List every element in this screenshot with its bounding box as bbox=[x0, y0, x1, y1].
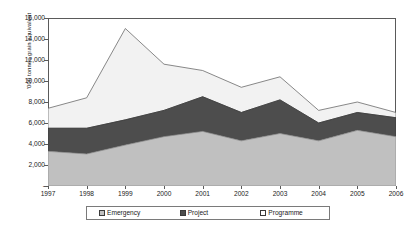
legend-swatch-icon bbox=[180, 210, 186, 216]
y-tick-label: 12,000 bbox=[1, 57, 45, 64]
y-tick-label: 10,000 bbox=[1, 78, 45, 85]
x-axis: 1997199819992000200120022003200420052006 bbox=[48, 190, 396, 204]
y-tick-label: 14,000 bbox=[1, 36, 45, 43]
legend-item-programme[interactable]: Programme bbox=[248, 210, 329, 217]
legend-swatch-icon bbox=[260, 210, 266, 216]
legend-label: Programme bbox=[268, 210, 302, 217]
y-tick-label: 16,000 bbox=[1, 15, 45, 22]
y-tick-label: 2,000 bbox=[1, 162, 45, 169]
x-tick-label: 2005 bbox=[337, 190, 377, 197]
legend-label: Project bbox=[188, 210, 209, 217]
x-tick-mark bbox=[280, 186, 281, 189]
x-tick-mark bbox=[87, 186, 88, 189]
chart-legend: EmergencyProjectProgramme bbox=[86, 206, 330, 220]
x-tick-mark bbox=[48, 186, 49, 189]
legend-label: Emergency bbox=[107, 210, 140, 217]
x-tick-mark bbox=[164, 186, 165, 189]
legend-item-project[interactable]: Project bbox=[168, 210, 249, 217]
y-tick-label: 6,000 bbox=[1, 120, 45, 127]
x-tick-label: 2003 bbox=[260, 190, 300, 197]
x-tick-mark bbox=[396, 186, 397, 189]
x-tick-mark bbox=[203, 186, 204, 189]
x-tick-label: 2002 bbox=[221, 190, 261, 197]
x-tick-mark bbox=[319, 186, 320, 189]
x-tick-label: 1997 bbox=[28, 190, 68, 197]
y-tick-label: 8,000 bbox=[1, 99, 45, 106]
x-tick-label: 2006 bbox=[376, 190, 416, 197]
y-tick-label: 4,000 bbox=[1, 141, 45, 148]
series-areas bbox=[48, 29, 396, 187]
stacked-area-chart: '000 tonnes grain equivalent -2,0004,000… bbox=[0, 0, 418, 231]
x-tick-mark bbox=[357, 186, 358, 189]
legend-swatch-icon bbox=[99, 210, 105, 216]
plot-series-layer bbox=[48, 18, 396, 186]
x-tick-label: 1999 bbox=[105, 190, 145, 197]
legend-item-emergency[interactable]: Emergency bbox=[87, 210, 168, 217]
x-tick-label: 2004 bbox=[299, 190, 339, 197]
x-tick-mark bbox=[241, 186, 242, 189]
x-tick-label: 2000 bbox=[144, 190, 184, 197]
x-tick-mark bbox=[125, 186, 126, 189]
y-tick-label: - bbox=[1, 183, 45, 190]
x-tick-label: 2001 bbox=[183, 190, 223, 197]
x-tick-label: 1998 bbox=[67, 190, 107, 197]
